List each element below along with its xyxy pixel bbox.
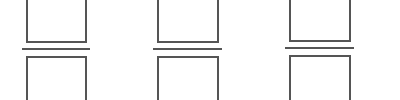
top-box-2: [157, 0, 219, 43]
divider-line-1: [22, 48, 90, 50]
divider-line-2: [153, 48, 222, 50]
top-box-1: [26, 0, 87, 43]
top-box-3: [289, 0, 351, 42]
divider-line-3: [285, 47, 354, 49]
bottom-box-2: [157, 56, 219, 100]
bottom-box-1: [26, 56, 87, 100]
bottom-box-3: [289, 55, 351, 100]
